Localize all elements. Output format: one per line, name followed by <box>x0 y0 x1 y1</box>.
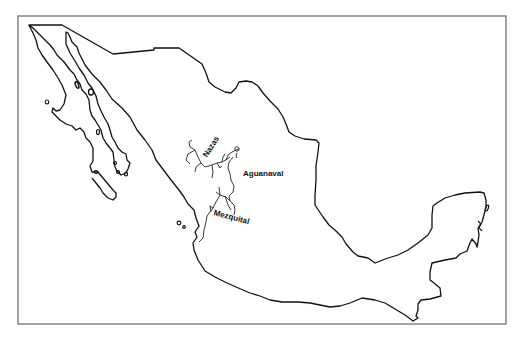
island <box>89 89 94 95</box>
island-tres-marias <box>183 226 186 229</box>
baja-outline <box>29 25 116 200</box>
island <box>97 130 100 135</box>
island <box>45 100 49 104</box>
island-tres-marias <box>177 221 181 225</box>
island <box>125 172 128 176</box>
river-label-aguanaval: Aguanaval <box>243 169 283 178</box>
